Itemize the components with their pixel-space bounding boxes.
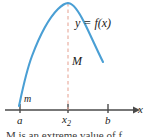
minimum-label: m [24,94,31,104]
max-location-label: x2 [62,114,71,125]
right-endpoint-label: b [105,115,111,126]
left-endpoint-label: a [17,115,23,126]
function-label: y = f(x) [75,17,111,29]
figure-container: y = f(x) M m a b x2 x M is an extreme va… [0,0,147,137]
x-axis-label: x [138,104,143,115]
maximum-label: M [72,55,82,67]
max-location-subscript: 2 [67,119,71,128]
figure-caption: M is an extreme value of f [6,129,147,137]
